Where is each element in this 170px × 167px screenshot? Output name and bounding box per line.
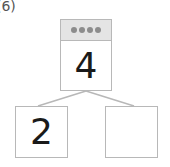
dot-icon: [87, 27, 93, 33]
dot-header: [61, 20, 111, 41]
part-box-right[interactable]: [105, 106, 158, 158]
whole-box: 4: [60, 19, 112, 91]
dot-icon: [71, 27, 77, 33]
dot-icon: [79, 27, 85, 33]
dot-icon: [95, 27, 101, 33]
whole-value: 4: [61, 41, 111, 91]
part-box-left: 2: [15, 106, 68, 158]
